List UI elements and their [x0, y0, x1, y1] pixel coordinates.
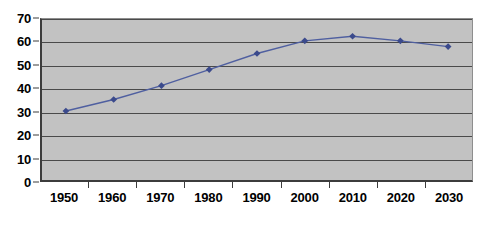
- y-axis-tick: [33, 158, 39, 159]
- x-axis-tick-label: 2020: [387, 190, 415, 205]
- y-axis-tick: [33, 135, 39, 136]
- y-axis-tick: [33, 41, 39, 42]
- data-point-marker: [349, 33, 356, 40]
- x-axis-tick: [184, 182, 185, 188]
- y-axis-tick: [33, 18, 39, 19]
- x-axis-tick-label: 2030: [435, 190, 463, 205]
- y-axis-tick-label: 70: [17, 11, 31, 26]
- y-axis-tick-label: 20: [17, 128, 31, 143]
- x-axis-tick: [136, 182, 137, 188]
- x-axis-tick-label: 2000: [291, 190, 319, 205]
- y-axis-tick: [33, 88, 39, 89]
- y-axis-tick: [33, 111, 39, 112]
- y-axis-tick-label: 50: [17, 57, 31, 72]
- data-point-marker: [206, 66, 213, 73]
- plot-area: [40, 18, 473, 182]
- data-point-marker: [254, 50, 261, 57]
- y-axis: 706050403020100: [0, 18, 36, 182]
- x-axis-tick-label: 1970: [146, 190, 174, 205]
- data-point-marker: [397, 38, 404, 45]
- x-axis: 195019601970198019902000201020202030: [40, 190, 473, 214]
- line-chart: 706050403020100 195019601970198019902000…: [0, 0, 493, 226]
- x-axis-tick-label: 1950: [50, 190, 78, 205]
- y-axis-tick-label: 0: [24, 175, 31, 190]
- data-point-marker: [110, 96, 117, 103]
- x-axis-tick: [281, 182, 282, 188]
- x-axis-tick: [329, 182, 330, 188]
- x-axis-tick: [425, 182, 426, 188]
- y-axis-tick-label: 30: [17, 104, 31, 119]
- data-point-marker: [301, 38, 308, 45]
- data-point-marker: [63, 108, 70, 115]
- y-axis-tick: [33, 182, 39, 183]
- x-axis-tick-label: 2010: [339, 190, 367, 205]
- data-point-marker: [445, 43, 452, 50]
- data-point-marker: [158, 82, 165, 89]
- y-axis-tick: [33, 64, 39, 65]
- x-axis-tick-label: 1980: [194, 190, 222, 205]
- x-axis-tick-label: 1990: [242, 190, 270, 205]
- y-axis-tick-label: 10: [17, 151, 31, 166]
- series-line: [66, 36, 448, 111]
- y-axis-tick-label: 60: [17, 34, 31, 49]
- y-axis-tick-label: 40: [17, 81, 31, 96]
- x-axis-tick: [88, 182, 89, 188]
- x-axis-tick: [377, 182, 378, 188]
- x-axis-tick-label: 1960: [98, 190, 126, 205]
- data-series: [42, 19, 472, 180]
- x-axis-tick: [232, 182, 233, 188]
